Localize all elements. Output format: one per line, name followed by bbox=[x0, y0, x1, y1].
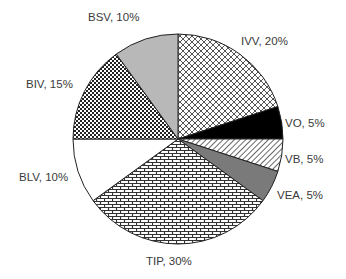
label-vo: VO, 5% bbox=[285, 118, 325, 130]
label-ivv: IVV, 20% bbox=[241, 36, 288, 48]
label-bsv: BSV, 10% bbox=[88, 12, 139, 24]
label-biv: BIV, 15% bbox=[26, 79, 73, 91]
label-vb: VB, 5% bbox=[285, 154, 323, 166]
pie-chart bbox=[0, 0, 346, 279]
pie-slices bbox=[73, 34, 283, 244]
label-blv: BLV, 10% bbox=[19, 172, 68, 184]
label-vea: VEA, 5% bbox=[277, 190, 323, 202]
label-tip: TIP, 30% bbox=[146, 256, 192, 268]
